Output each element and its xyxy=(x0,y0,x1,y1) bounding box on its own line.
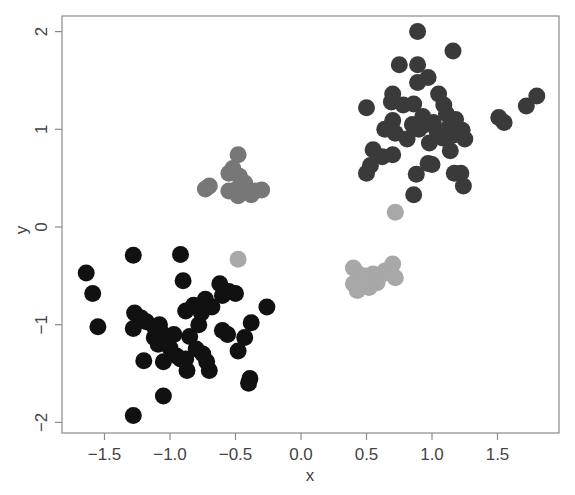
data-point xyxy=(135,352,152,369)
x-tick-label: −1.5 xyxy=(88,445,122,464)
y-tick-label: −1 xyxy=(32,315,51,334)
data-point xyxy=(384,146,401,163)
data-point xyxy=(258,299,275,316)
y-tick-label: −2 xyxy=(32,413,51,432)
data-point xyxy=(78,264,95,281)
data-point xyxy=(380,264,397,281)
y-axis-title: y xyxy=(12,225,31,234)
scatter-chart: −1.5−1.0−0.50.00.51.01.5 −2−1012 x y xyxy=(0,0,575,495)
data-point xyxy=(197,180,214,197)
data-point xyxy=(358,99,375,116)
x-tick-label: 0.5 xyxy=(355,445,379,464)
data-point xyxy=(89,318,106,335)
data-point xyxy=(405,186,422,203)
data-point xyxy=(198,353,215,370)
y-tick-label: 1 xyxy=(32,125,51,134)
data-point xyxy=(165,326,182,343)
data-point xyxy=(445,43,462,60)
data-point xyxy=(203,299,220,316)
x-tick-label: 1.5 xyxy=(486,445,510,464)
data-point xyxy=(456,131,473,148)
data-point xyxy=(391,56,408,73)
data-point xyxy=(424,156,441,173)
x-axis: −1.5−1.0−0.50.00.51.01.5 xyxy=(88,433,510,464)
x-tick-label: −1.0 xyxy=(153,445,187,464)
data-point xyxy=(240,375,257,392)
data-point xyxy=(447,111,464,128)
data-point xyxy=(155,388,172,405)
data-point xyxy=(358,165,375,182)
data-point xyxy=(455,178,472,195)
data-point xyxy=(175,272,192,289)
data-point xyxy=(230,187,247,204)
data-point xyxy=(125,247,142,264)
x-tick-label: 0.0 xyxy=(289,445,313,464)
data-point xyxy=(172,246,189,263)
x-axis-title: x xyxy=(306,466,315,485)
data-point xyxy=(376,121,393,138)
data-point xyxy=(409,74,426,91)
data-point xyxy=(353,272,370,289)
data-point xyxy=(146,329,163,346)
data-point xyxy=(408,166,425,183)
data-point xyxy=(84,285,101,302)
data-point xyxy=(230,251,247,268)
y-tick-label: 2 xyxy=(32,27,51,36)
data-point xyxy=(387,204,404,221)
data-point xyxy=(243,314,260,331)
data-point xyxy=(125,407,142,424)
data-point xyxy=(177,303,194,320)
data-point xyxy=(227,285,244,302)
data-point xyxy=(528,88,545,105)
x-tick-label: −0.5 xyxy=(219,445,253,464)
y-tick-label: 0 xyxy=(32,222,51,231)
data-point xyxy=(219,326,236,343)
data-point xyxy=(399,131,416,148)
y-axis: −2−1012 xyxy=(32,27,62,432)
data-point xyxy=(409,23,426,40)
data-point xyxy=(442,142,459,159)
plot-area xyxy=(62,16,559,433)
data-point xyxy=(404,116,421,133)
x-tick-label: 1.0 xyxy=(420,445,444,464)
data-point xyxy=(230,343,247,360)
data-point xyxy=(496,114,513,131)
